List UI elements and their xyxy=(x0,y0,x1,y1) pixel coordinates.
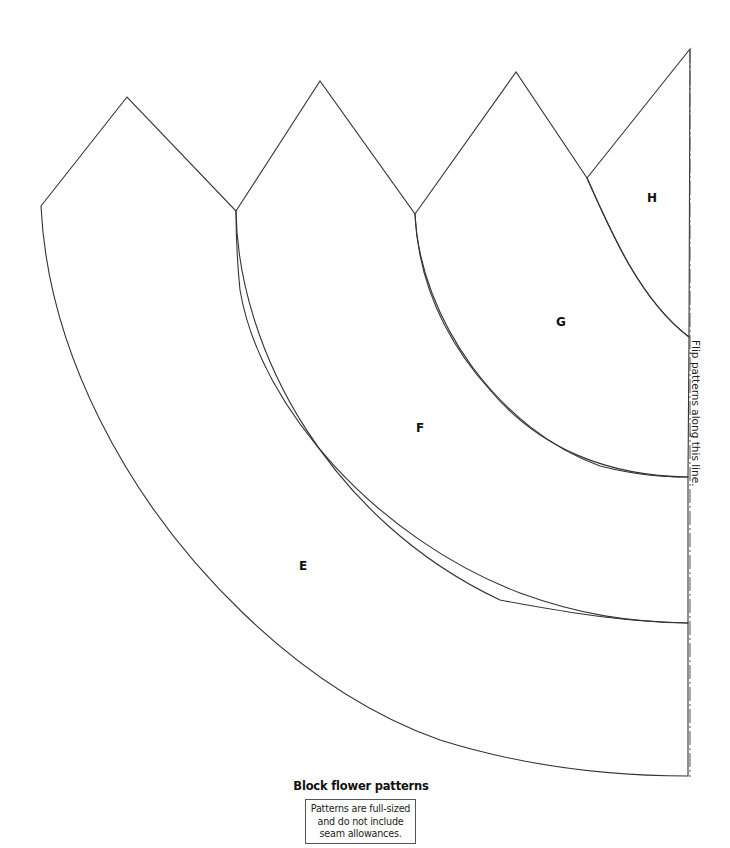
note-box: Patterns are full-sized and do not inclu… xyxy=(305,799,416,844)
note-line-1: Patterns are full-sized xyxy=(306,803,415,816)
note-line-2: and do not include xyxy=(306,816,415,829)
piece-e-outline xyxy=(41,97,688,776)
piece-label-g: G xyxy=(556,315,566,329)
piece-g-outline xyxy=(415,72,689,477)
note-line-3: seam allowances. xyxy=(306,828,415,841)
piece-h-outline xyxy=(587,49,690,337)
piece-f-outline xyxy=(236,81,688,623)
fold-instruction: Flip patterns along this line. xyxy=(690,340,702,486)
piece-label-e: E xyxy=(299,559,307,573)
pattern-diagram: E F G H xyxy=(0,0,730,848)
piece-label-h: H xyxy=(647,191,657,205)
piece-label-f: F xyxy=(416,421,424,435)
page-title: Block flower patterns xyxy=(290,779,432,793)
